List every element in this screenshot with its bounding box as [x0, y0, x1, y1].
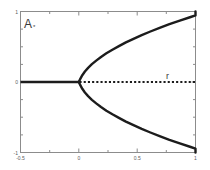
- y-tick-label-0: 0: [15, 79, 18, 85]
- x-tick-label-1: 1: [194, 155, 197, 161]
- x-tick-label-05: 0.5: [134, 155, 141, 161]
- x-tick-label-0: 0: [77, 155, 80, 161]
- y-axis-label: A: [24, 17, 32, 31]
- bifurcation-diagram-figure: 1 0 -1 -0.5 0 0.5 1 A * r: [0, 0, 210, 170]
- plot-canvas: 1 0 -1 -0.5 0 0.5 1 A * r: [0, 0, 210, 170]
- x-tick-label-neg05: -0.5: [16, 155, 25, 161]
- y-tick-label-1: 1: [15, 9, 18, 15]
- x-axis-label: r: [166, 71, 169, 81]
